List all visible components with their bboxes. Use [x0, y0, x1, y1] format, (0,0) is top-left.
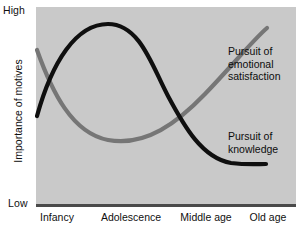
series-label-emotional-line2: emotional [228, 58, 281, 71]
y-axis-title: Importance of motives [12, 36, 24, 186]
y-axis-tick-low: Low [8, 197, 28, 209]
series-label-knowledge-line1: Pursuit of [228, 130, 278, 143]
x-axis-tick-old-age: Old age [237, 211, 299, 223]
chart-figure: High Low Importance of motives Infancy A… [0, 0, 304, 237]
series-label-emotional-satisfaction: Pursuit of emotional satisfaction [228, 45, 281, 83]
chart-curves [0, 0, 304, 237]
series-label-knowledge-line2: knowledge [228, 143, 278, 156]
series-label-emotional-line1: Pursuit of [228, 45, 281, 58]
x-axis-tick-middle-age: Middle age [167, 211, 245, 223]
series-label-knowledge: Pursuit of knowledge [228, 130, 278, 155]
series-label-emotional-line3: satisfaction [228, 70, 281, 83]
y-axis-tick-high: High [3, 4, 25, 16]
x-axis-tick-infancy: Infancy [24, 211, 90, 223]
x-axis-tick-adolescence: Adolescence [85, 211, 177, 223]
